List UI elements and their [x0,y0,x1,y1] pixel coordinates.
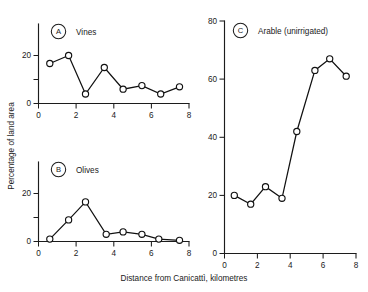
data-point [120,229,126,235]
panel-b-y-tick-labels: 20 0 [22,189,32,246]
multi-panel-line-chart: 20 0 0 2 4 6 8 A Vines [0,0,368,292]
panel-a-y-ticks [34,56,39,104]
panel-a-data-markers [47,52,183,97]
panel-a-y-tick-label: 0 [26,99,31,108]
panel-b-y-ticks [34,194,39,242]
data-point [262,184,268,190]
panel-b-x-ticks [39,242,190,247]
panel-c-x-tick-label: 6 [321,261,326,270]
data-point [279,195,285,201]
data-point [82,91,88,97]
panel-a-x-tick-label: 4 [112,111,117,120]
panel-a-x-tick-labels: 0 2 4 6 8 [36,111,192,120]
panel-b-x-tick-labels: 0 2 4 6 8 [36,249,192,258]
data-point [66,217,72,223]
panel-a-x-tick-label: 2 [74,111,79,120]
panel-c-y-tick-label: 60 [208,75,218,84]
panel-b-y-tick-label: 0 [26,237,31,246]
panel-c-y-ticks [220,21,225,254]
figure-container: 20 0 0 2 4 6 8 A Vines [0,0,368,292]
panel-c-x-tick-labels: 0 2 4 6 8 [222,261,359,270]
data-point [47,60,53,66]
data-point [101,64,107,70]
data-point [156,236,162,242]
panel-a-vines: 20 0 0 2 4 6 8 A Vines [22,24,192,120]
panel-c-x-tick-label: 4 [288,261,293,270]
panel-c-data-line [234,59,346,204]
data-point [176,84,182,90]
data-point [103,231,109,237]
panel-c-badge-letter: C [238,26,244,35]
data-point [120,86,126,92]
panel-c-x-tick-label: 2 [255,261,260,270]
data-point [139,83,145,89]
data-point [294,128,300,134]
panel-c-arable: 80 60 40 20 0 0 2 4 6 8 C Arable (unirri… [208,17,359,270]
data-point [231,192,237,198]
panel-b-title: Olives [76,166,99,175]
data-point [82,199,88,205]
panel-c-y-tick-label: 0 [212,249,217,258]
panel-c-x-ticks [225,254,357,259]
panel-a-x-tick-label: 8 [187,111,192,120]
panel-c-x-tick-label: 8 [354,261,359,270]
panel-c-y-tick-labels: 80 60 40 20 0 [208,17,218,259]
panel-a-title: Vines [76,28,96,37]
data-point [66,52,72,58]
panel-b-x-tick-label: 0 [36,249,41,258]
panel-a-badge: A [51,24,65,38]
panel-c-x-tick-label: 0 [222,261,227,270]
panel-b-y-tick-label: 20 [22,189,32,198]
panel-c-badge: C [233,23,247,37]
panel-b-x-tick-label: 4 [112,249,117,258]
data-point [312,67,318,73]
data-point [176,237,182,243]
panel-a-y-tick-labels: 20 0 [22,51,32,108]
panel-a-data-line [50,56,180,95]
data-point [139,231,145,237]
y-axis-caption: Percentage of land area [7,102,16,190]
panel-c-y-tick-label: 80 [208,17,218,26]
data-point [47,236,53,242]
panel-a-y-tick-label: 20 [22,51,32,60]
panel-a-x-tick-label: 6 [149,111,154,120]
data-point [327,56,333,62]
panel-b-x-tick-label: 2 [74,249,79,258]
panel-c-y-tick-label: 40 [208,133,218,142]
data-point [248,201,254,207]
data-point [158,91,164,97]
panel-c-data-markers [231,56,349,208]
panel-a-x-tick-label: 0 [36,111,41,120]
panel-b-data-markers [47,199,183,244]
panel-b-badge-letter: B [56,165,61,174]
panel-a-x-ticks [39,104,190,109]
panel-c-title: Arable (unirrigated) [258,27,328,36]
panel-b-olives: 20 0 0 2 4 6 8 B Olives [22,162,192,258]
panel-b-x-tick-label: 6 [149,249,154,258]
panel-b-badge: B [51,162,65,176]
data-point [343,73,349,79]
x-axis-caption: Distance from Canicattì, kilometres [121,274,248,283]
panel-b-x-tick-label: 8 [187,249,192,258]
panel-c-y-tick-label: 20 [208,191,218,200]
